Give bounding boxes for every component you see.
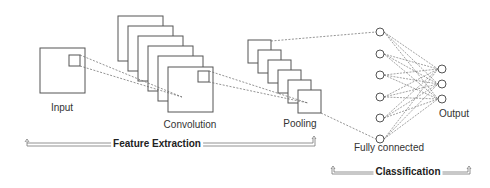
fully-connected-label: Fully connected: [354, 142, 424, 153]
input-label: Input: [51, 102, 73, 113]
pooling-maps: [248, 40, 321, 113]
output-label: Output: [439, 108, 469, 119]
cnn-diagram: [0, 0, 490, 188]
output-neuron: [438, 65, 446, 73]
fc-neuron: [376, 71, 384, 79]
output-neuron: [438, 80, 446, 88]
convolution-maps: [118, 16, 213, 112]
feature-extraction-label: Feature Extraction: [111, 138, 203, 149]
output-neuron: [438, 95, 446, 103]
fc-neuron: [376, 114, 384, 122]
fc-neuron: [376, 93, 384, 101]
fc-neuron: [376, 50, 384, 58]
fc-neuron: [376, 28, 384, 36]
output-neurons: [438, 65, 446, 103]
fully-connected-neurons: [376, 28, 384, 143]
classification-label: Classification: [373, 166, 442, 177]
input-map: [40, 48, 85, 93]
fc-output-connections: [384, 32, 438, 139]
pooling-label: Pooling: [283, 118, 316, 129]
convolution-label: Convolution: [164, 119, 217, 130]
